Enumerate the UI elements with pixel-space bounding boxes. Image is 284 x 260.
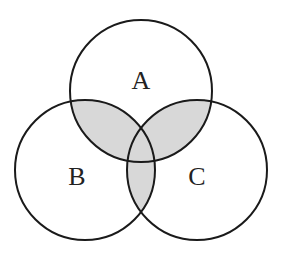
label-c: C bbox=[188, 162, 205, 191]
label-a: A bbox=[132, 66, 151, 95]
venn-svg: A B C bbox=[0, 0, 284, 260]
label-b: B bbox=[68, 162, 85, 191]
shaded-intersections bbox=[15, 100, 267, 240]
venn-diagram: A B C bbox=[0, 0, 284, 260]
